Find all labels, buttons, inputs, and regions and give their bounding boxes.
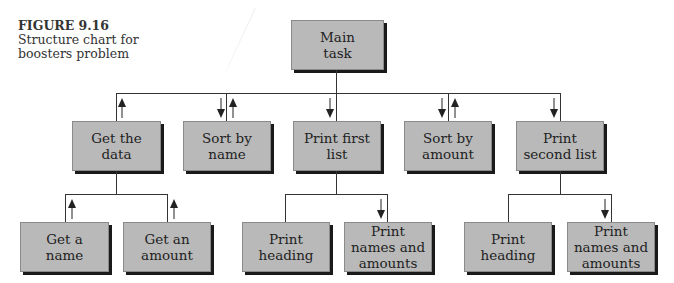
connector bbox=[116, 93, 561, 94]
data-flow-down-arrow-icon bbox=[601, 199, 609, 219]
data-flow-up-arrow-icon bbox=[229, 98, 237, 118]
node-main-task: Main task bbox=[291, 20, 384, 70]
data-flow-down-arrow-icon bbox=[438, 98, 446, 118]
connector bbox=[285, 194, 286, 222]
node-label: Print first list bbox=[297, 130, 377, 162]
node-sort-by-amount: Sort by amount bbox=[404, 121, 492, 171]
connector bbox=[448, 93, 449, 121]
connector bbox=[65, 194, 66, 222]
data-flow-up-arrow-icon bbox=[170, 199, 178, 219]
connector bbox=[611, 194, 612, 222]
connector bbox=[65, 194, 168, 195]
node-label: Sort by amount bbox=[418, 130, 478, 162]
connector bbox=[508, 194, 612, 195]
connector bbox=[336, 70, 337, 93]
connector bbox=[116, 93, 117, 121]
node-label: Print heading bbox=[478, 231, 538, 263]
connector bbox=[167, 194, 168, 222]
node-print-names-and-amounts-1: Print names and amounts bbox=[344, 222, 432, 272]
node-print-first-list: Print first list bbox=[293, 121, 381, 171]
connector bbox=[560, 93, 561, 121]
connector bbox=[226, 93, 227, 121]
node-print-names-and-amounts-2: Print names and amounts bbox=[567, 222, 655, 272]
node-print-heading-1: Print heading bbox=[242, 222, 330, 272]
node-print-second-list: Print second list bbox=[516, 121, 604, 171]
data-flow-up-arrow-icon bbox=[68, 199, 76, 219]
node-get-the-data: Get the data bbox=[72, 121, 161, 171]
connector bbox=[336, 171, 337, 194]
data-flow-down-arrow-icon bbox=[377, 199, 385, 219]
node-get-an-amount: Get an amount bbox=[123, 222, 211, 272]
data-flow-down-arrow-icon bbox=[326, 98, 334, 118]
node-label: Get an amount bbox=[137, 231, 197, 263]
data-flow-up-arrow-icon bbox=[118, 98, 126, 118]
node-label: Print second list bbox=[517, 130, 603, 162]
node-label: Sort by name bbox=[200, 130, 255, 162]
node-label: Print names and amounts bbox=[571, 223, 651, 271]
node-print-heading-2: Print heading bbox=[464, 222, 552, 272]
connector bbox=[387, 194, 388, 222]
node-label: Print heading bbox=[256, 231, 316, 263]
node-sort-by-name: Sort by name bbox=[183, 121, 271, 171]
node-label: Print names and amounts bbox=[348, 223, 428, 271]
node-get-a-name: Get a name bbox=[20, 222, 109, 272]
figure-label: FIGURE 9.16 bbox=[18, 19, 158, 33]
data-flow-down-arrow-icon bbox=[217, 98, 225, 118]
connector bbox=[285, 194, 388, 195]
node-label: Get the data bbox=[87, 130, 147, 162]
connector bbox=[116, 171, 117, 194]
connector bbox=[560, 171, 561, 194]
node-label: Get a name bbox=[40, 231, 90, 263]
figure-caption-text: Structure chart for boosters problem bbox=[18, 32, 139, 61]
connector bbox=[336, 93, 337, 121]
data-flow-up-arrow-icon bbox=[451, 98, 459, 118]
connector bbox=[508, 194, 509, 222]
node-label: Main task bbox=[313, 29, 363, 61]
figure-caption: FIGURE 9.16 Structure chart for boosters… bbox=[18, 19, 158, 61]
data-flow-down-arrow-icon bbox=[550, 98, 558, 118]
scan-artifact bbox=[225, 8, 255, 72]
